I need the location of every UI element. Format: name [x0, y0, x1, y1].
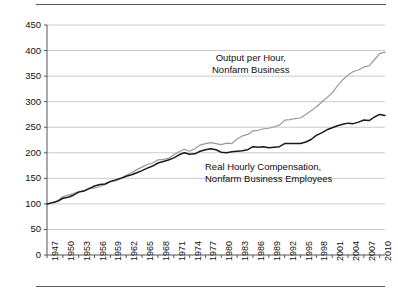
x-tick-label: 1953: [83, 241, 92, 261]
x-tick-label: 1977: [209, 241, 218, 261]
x-tick-label: 1974: [194, 241, 203, 261]
x-tick-label: 1959: [114, 241, 123, 261]
x-tick-label: 1950: [67, 241, 76, 261]
x-tick-label: 2001: [336, 241, 345, 261]
x-tick-label: 1986: [257, 241, 266, 261]
x-tick-label: 1980: [225, 241, 234, 261]
y-tick-label: 50: [11, 224, 41, 234]
series-line-real-hourly-compensation: [47, 114, 385, 203]
annotation-real-hourly-compensation: Real Hourly Compensation, Nonfarm Busine…: [205, 161, 332, 185]
annotation-output-line-1: Output per Hour,: [212, 52, 290, 64]
x-tick-label: 2004: [352, 241, 361, 261]
x-tick-label: 1989: [273, 241, 282, 261]
x-tick-label: 1956: [99, 241, 108, 261]
figure: 050100150200250300350400450 194719501953…: [0, 0, 398, 295]
x-tick-label: 1995: [305, 241, 314, 261]
y-tick-label: 450: [11, 20, 41, 30]
y-tick-label: 150: [11, 173, 41, 183]
x-tick-label: 1947: [51, 241, 60, 261]
y-tick-label: 300: [11, 97, 41, 107]
annotation-comp-line-1: Real Hourly Compensation,: [205, 161, 332, 173]
x-tick-label: 1971: [178, 241, 187, 261]
x-tick-label: 1968: [162, 241, 171, 261]
x-tick-label: 2010: [384, 241, 393, 261]
y-tick-label: 0: [11, 250, 41, 260]
y-tick-label: 250: [11, 122, 41, 132]
annotation-comp-line-2: Nonfarm Business Employees: [205, 173, 332, 185]
y-tick-label: 200: [11, 148, 41, 158]
y-tick-label: 100: [11, 199, 41, 209]
x-tick-label: 1998: [320, 241, 329, 261]
y-tick-label: 400: [11, 46, 41, 56]
annotation-output-per-hour: Output per Hour, Nonfarm Business: [212, 52, 290, 76]
x-tick-label: 1992: [289, 241, 298, 261]
y-tick-label: 350: [11, 71, 41, 81]
annotation-output-line-2: Nonfarm Business: [212, 64, 290, 76]
x-tick-label: 1983: [241, 241, 250, 261]
x-tick-label: 2007: [368, 241, 377, 261]
x-tick-label: 1962: [130, 241, 139, 261]
x-tick-label: 1965: [146, 241, 155, 261]
